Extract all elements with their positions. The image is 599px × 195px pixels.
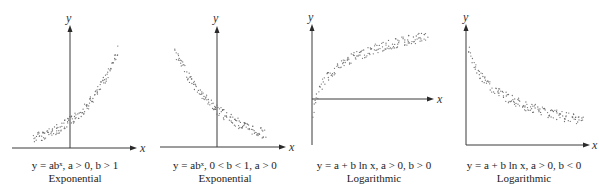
data-point [56, 128, 57, 129]
data-point [56, 132, 57, 133]
data-point [388, 40, 389, 41]
data-point [495, 88, 496, 89]
data-point [322, 78, 323, 79]
data-point [474, 62, 475, 63]
data-point [415, 43, 416, 44]
data-point [470, 55, 471, 56]
data-point [232, 116, 233, 117]
data-point [223, 109, 224, 110]
data-point [239, 120, 240, 121]
data-point [203, 98, 204, 99]
data-point [415, 39, 416, 40]
data-point [324, 84, 325, 85]
data-point [418, 37, 419, 38]
data-point [74, 121, 75, 122]
data-point [469, 47, 470, 48]
data-point [519, 105, 520, 106]
data-point [582, 119, 583, 120]
data-point [578, 119, 579, 120]
data-point [219, 108, 220, 109]
data-point [243, 125, 244, 126]
data-point [334, 74, 335, 75]
data-point [371, 48, 372, 49]
data-point [184, 65, 185, 66]
data-point [388, 46, 389, 47]
data-point [223, 119, 224, 120]
data-point [419, 37, 420, 38]
data-point [100, 84, 101, 85]
data-point [43, 137, 44, 138]
data-point [482, 76, 483, 77]
data-point [246, 126, 247, 127]
data-point [367, 47, 368, 48]
data-point [235, 125, 236, 126]
data-point [106, 74, 107, 75]
data-point [533, 112, 534, 113]
data-point [485, 80, 486, 81]
data-point [100, 89, 101, 90]
data-point [478, 70, 479, 71]
data-point [334, 73, 335, 74]
data-point [502, 92, 503, 93]
data-point [508, 101, 509, 102]
caption-log-decreasing: y = a + b ln x, a > 0, b < 0 Logarithmic [449, 159, 599, 185]
data-point [418, 33, 419, 34]
y-axis-arrow-icon [464, 24, 469, 31]
data-point [106, 81, 107, 82]
data-point [252, 125, 253, 126]
data-point [226, 112, 227, 113]
data-point [382, 46, 383, 47]
data-point [556, 112, 557, 113]
data-point [332, 73, 333, 74]
data-point [317, 98, 318, 99]
data-point [348, 59, 349, 60]
data-point [84, 104, 85, 105]
data-point [239, 127, 240, 128]
equation: y = abˣ, 0 < b < 1, a > 0 [173, 159, 277, 171]
data-point [258, 133, 259, 134]
data-point [493, 91, 494, 92]
data-point [242, 126, 243, 127]
data-point [39, 135, 40, 136]
data-point [411, 41, 412, 42]
data-point [553, 111, 554, 112]
data-point [540, 112, 541, 113]
data-point [482, 73, 483, 74]
data-point [229, 116, 230, 117]
data-point [350, 63, 351, 64]
data-point [178, 55, 179, 56]
data-point [83, 114, 84, 115]
data-point [524, 109, 525, 110]
data-point [377, 52, 378, 53]
data-point [68, 120, 69, 121]
data-point [107, 72, 108, 73]
data-point [206, 99, 207, 100]
data-point [108, 68, 109, 69]
data-point [41, 136, 42, 137]
data-point [117, 55, 118, 56]
data-point [222, 110, 223, 111]
data-point [395, 38, 396, 39]
data-point [420, 38, 421, 39]
data-point [382, 42, 383, 43]
data-point [74, 113, 75, 114]
data-point [78, 118, 79, 119]
data-point [206, 95, 207, 96]
data-point [538, 111, 539, 112]
data-point [413, 36, 414, 37]
data-point [60, 126, 61, 127]
data-point [512, 95, 513, 96]
equation: y = abˣ, a > 0, b > 1 [32, 159, 119, 171]
data-point [356, 55, 357, 56]
data-point [397, 46, 398, 47]
data-point [575, 119, 576, 120]
data-point [484, 82, 485, 83]
data-point [538, 110, 539, 111]
data-point [402, 38, 403, 39]
data-point [476, 72, 477, 73]
data-point [553, 117, 554, 118]
data-point [195, 84, 196, 85]
data-point [556, 109, 557, 110]
data-point [349, 63, 350, 64]
data-point [397, 44, 398, 45]
